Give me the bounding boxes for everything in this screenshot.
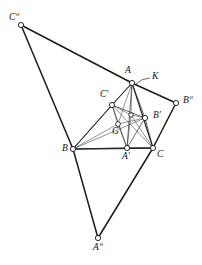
triangle-edge-cp-a	[112, 83, 132, 105]
vertex-label-b2: Bʺ	[183, 96, 193, 106]
vertex-point-bp[interactable]	[142, 115, 147, 120]
vertex-point-b[interactable]	[70, 146, 75, 151]
k-leader-arc	[136, 78, 150, 84]
vertex-label-g: G	[112, 127, 119, 137]
cevian-g-bp	[118, 118, 145, 124]
vertex-point-c[interactable]	[150, 145, 155, 150]
cevian-a-g	[118, 83, 132, 124]
vertex-label-c2: Cʺ	[9, 13, 19, 23]
vertex-label-cp: C′	[100, 90, 108, 100]
vertex-point-cp[interactable]	[109, 102, 114, 107]
geometry-canvas	[0, 0, 202, 265]
vertex-point-a[interactable]	[129, 80, 134, 85]
vertex-label-ap: A′	[122, 152, 130, 162]
vertex-label-c: C	[157, 150, 163, 160]
annotation-layer	[136, 78, 150, 84]
vertex-label-k: K	[152, 72, 158, 82]
outer-edge-b-a2	[73, 149, 98, 238]
vertex-label-a: A	[125, 66, 131, 76]
vertex-point-o[interactable]	[129, 113, 133, 117]
cevian-b-bp	[73, 118, 145, 149]
vertex-label-b: B	[62, 144, 68, 154]
vertex-point-b2[interactable]	[173, 100, 178, 105]
vertex-label-a2: Aʺ	[93, 243, 103, 253]
geometry-figure: CʺAKBʺC′B′GBA′CAʺ	[0, 0, 202, 265]
outer-edge-a2-c	[98, 148, 153, 238]
outer-edge-c2-b	[21, 25, 73, 149]
vertex-point-ap[interactable]	[124, 145, 129, 150]
edge-cp-b-thin	[73, 105, 112, 149]
cevian-o-c	[131, 115, 153, 148]
vertex-layer	[18, 22, 178, 240]
vertex-label-bp: B′	[153, 111, 161, 121]
segment-layer	[21, 25, 176, 238]
outer-edge-c2-a	[21, 25, 132, 83]
triangle-edge-a-c	[132, 83, 153, 148]
vertex-point-c2[interactable]	[18, 22, 23, 27]
vertex-point-a2[interactable]	[95, 235, 100, 240]
